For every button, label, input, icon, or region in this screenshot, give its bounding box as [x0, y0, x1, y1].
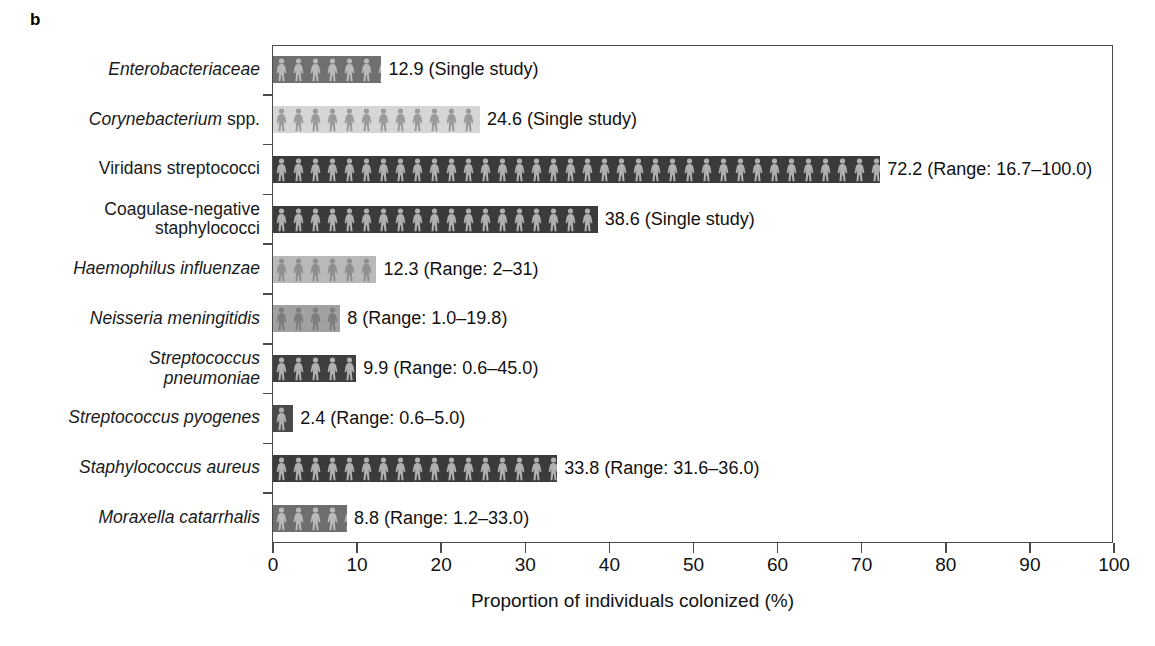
bar-row: Streptococcus pneumoniae9.9 (Range: 0.6–… — [0, 344, 1155, 394]
bar-fill — [273, 256, 376, 283]
bar-row: Staphylococcus aureus33.8 (Range: 31.6–3… — [0, 443, 1155, 493]
person-silhouette-pattern-icon — [273, 355, 356, 382]
bar-row: Viridans streptococci72.2 (Range: 16.7–1… — [0, 145, 1155, 195]
bar-fill — [273, 56, 381, 83]
x-axis-tick — [356, 543, 358, 553]
bar-value-label: 24.6 (Single study) — [487, 106, 637, 133]
bar-fill — [273, 106, 480, 133]
category-label: Haemophilus influenzae — [12, 259, 260, 279]
bar-row: Coagulase-negative staphylococci38.6 (Si… — [0, 194, 1155, 244]
x-axis-tick-label: 80 — [916, 554, 976, 576]
bar-value-label: 8.8 (Range: 1.2–33.0) — [354, 505, 529, 532]
bar — [273, 305, 340, 332]
bar — [273, 206, 598, 233]
bar-fill — [273, 355, 356, 382]
x-axis-tick — [1029, 543, 1031, 553]
x-axis-tick — [777, 543, 779, 553]
bar-rows-container: Enterobacteriaceae12.9 (Single study)Cor… — [0, 45, 1155, 543]
y-axis-tick — [263, 393, 272, 395]
bar — [273, 256, 376, 283]
y-axis-tick — [263, 492, 272, 494]
bar-value-label: 12.3 (Range: 2–31) — [383, 256, 538, 283]
x-axis-tick-label: 40 — [579, 554, 639, 576]
x-axis-tick-label: 10 — [327, 554, 387, 576]
y-axis-tick — [263, 194, 272, 196]
bar-value-label: 9.9 (Range: 0.6–45.0) — [363, 355, 538, 382]
bar-row: Haemophilus influenzae12.3 (Range: 2–31) — [0, 244, 1155, 294]
bar-value-label: 72.2 (Range: 16.7–100.0) — [887, 156, 1092, 183]
bar-row: Streptococcus pyogenes2.4 (Range: 0.6–5.… — [0, 394, 1155, 444]
bar-value-label: 12.9 (Single study) — [388, 56, 538, 83]
person-silhouette-pattern-icon — [273, 455, 557, 482]
category-label: Enterobacteriaceae — [12, 60, 260, 80]
panel-label: b — [30, 10, 40, 30]
x-axis-tick — [272, 543, 274, 553]
x-axis-tick-label: 100 — [1084, 554, 1144, 576]
bar — [273, 56, 381, 83]
x-axis-title-text: Proportion of individuals colonized (%) — [471, 590, 794, 612]
x-axis-tick — [861, 543, 863, 553]
x-axis-tick-label: 70 — [832, 554, 892, 576]
y-axis-tick — [263, 243, 272, 245]
x-axis-tick-label: 30 — [495, 554, 555, 576]
person-silhouette-pattern-icon — [273, 106, 480, 133]
bar-fill — [273, 455, 557, 482]
bar — [273, 405, 293, 432]
bar-row: Enterobacteriaceae12.9 (Single study) — [0, 45, 1155, 95]
x-axis-tick — [1113, 543, 1115, 553]
bar-fill — [273, 305, 340, 332]
x-axis-tick-label: 90 — [1000, 554, 1060, 576]
person-silhouette-pattern-icon — [273, 156, 880, 183]
person-silhouette-pattern-icon — [273, 505, 347, 532]
bar — [273, 455, 557, 482]
category-label: Corynebacterium spp. — [12, 110, 260, 130]
bar-fill — [273, 156, 880, 183]
category-label: Moraxella catarrhalis — [12, 508, 260, 528]
bar-row: Neisseria meningitidis8 (Range: 1.0–19.8… — [0, 294, 1155, 344]
bar-value-label: 33.8 (Range: 31.6–36.0) — [564, 455, 759, 482]
y-axis-tick — [263, 293, 272, 295]
person-silhouette-pattern-icon — [273, 256, 376, 283]
x-axis-title: Proportion of individuals colonized (%) — [0, 590, 1155, 612]
x-axis-tick — [945, 543, 947, 553]
bar-value-label: 38.6 (Single study) — [605, 206, 755, 233]
category-label: Streptococcus pneumoniae — [12, 349, 260, 388]
person-silhouette-pattern-icon — [273, 56, 381, 83]
bar-value-label: 2.4 (Range: 0.6–5.0) — [300, 405, 465, 432]
category-label: Staphylococcus aureus — [12, 458, 260, 478]
y-axis-tick — [263, 443, 272, 445]
category-label: Coagulase-negative staphylococci — [12, 200, 260, 239]
person-silhouette-pattern-icon — [273, 206, 598, 233]
figure-panel-b: b Enterobacteriaceae12.9 (Single study)C… — [0, 0, 1155, 646]
bar — [273, 355, 356, 382]
category-label: Viridans streptococci — [12, 159, 260, 179]
bar-fill — [273, 505, 347, 532]
x-axis-tick-label: 50 — [664, 554, 724, 576]
category-label: Neisseria meningitidis — [12, 309, 260, 329]
x-axis-tick-label: 60 — [748, 554, 808, 576]
category-label: Streptococcus pyogenes — [12, 408, 260, 428]
bar-value-label: 8 (Range: 1.0–19.8) — [347, 305, 507, 332]
x-axis-tick — [440, 543, 442, 553]
y-axis-tick — [263, 144, 272, 146]
x-axis-tick — [525, 543, 527, 553]
x-axis-tick — [609, 543, 611, 553]
bar — [273, 156, 880, 183]
person-silhouette-pattern-icon — [273, 305, 340, 332]
x-axis-tick — [693, 543, 695, 553]
bar-fill — [273, 405, 293, 432]
bar-fill — [273, 206, 598, 233]
bar — [273, 505, 347, 532]
y-axis-tick — [263, 343, 272, 345]
x-axis-tick-label: 0 — [243, 554, 303, 576]
bar-row: Corynebacterium spp.24.6 (Single study) — [0, 95, 1155, 145]
y-axis-tick — [263, 94, 272, 96]
bar-row: Moraxella catarrhalis8.8 (Range: 1.2–33.… — [0, 493, 1155, 543]
bar — [273, 106, 480, 133]
x-axis-tick-label: 20 — [411, 554, 471, 576]
person-silhouette-pattern-icon — [273, 405, 293, 432]
